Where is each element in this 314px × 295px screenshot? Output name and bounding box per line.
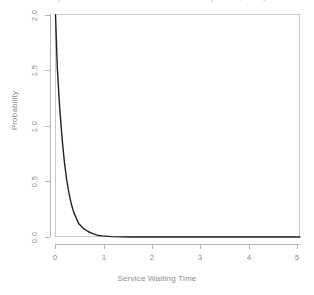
y-tick-mark: [45, 15, 50, 16]
x-tick-label: 3: [190, 253, 210, 262]
y-axis-line: [50, 14, 51, 237]
y-tick-label: 0.0: [30, 228, 39, 248]
x-tick-mark: [249, 244, 250, 249]
x-axis-title: Service Waiting Time: [0, 274, 314, 283]
x-tick-label: 1: [94, 253, 114, 262]
y-tick-label: 0.5: [30, 172, 39, 192]
y-tick-mark: [45, 70, 50, 71]
x-tick-label: 2: [142, 253, 162, 262]
x-tick-label: 5: [287, 253, 307, 262]
y-tick-label: 2.0: [30, 6, 39, 26]
y-axis-title: Probability: [10, 81, 19, 141]
x-tick-mark: [200, 244, 201, 249]
chart-title: Exponential Distribution for Service Pro…: [0, 0, 314, 2]
y-tick-mark: [45, 126, 50, 127]
x-tick-mark: [55, 244, 56, 249]
x-tick-mark: [152, 244, 153, 249]
y-tick-mark: [45, 237, 50, 238]
y-tick-label: 1.5: [30, 61, 39, 81]
x-axis-line: [55, 244, 300, 245]
y-tick-label: 1.0: [30, 117, 39, 137]
y-tick-mark: [45, 181, 50, 182]
x-tick-label: 4: [239, 253, 259, 262]
x-tick-label: 0: [45, 253, 65, 262]
exponential-curve: [55, 14, 300, 237]
chart-plot-area: Exponential Distribution for Service Pro…: [0, 0, 314, 295]
x-tick-mark: [104, 244, 105, 249]
x-tick-mark: [297, 244, 298, 249]
